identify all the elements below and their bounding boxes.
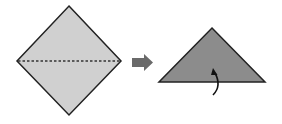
origami-diagram — [0, 0, 282, 124]
arrow-right-icon — [132, 54, 153, 71]
step-1-diamond — [17, 6, 121, 115]
